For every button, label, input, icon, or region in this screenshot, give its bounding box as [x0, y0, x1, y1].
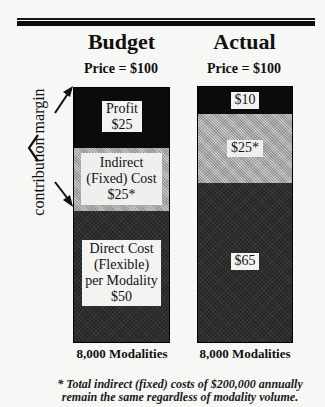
budget-direct-label-line3: per Modality	[82, 273, 161, 289]
budget-indirect-label: Indirect (Fixed) Cost $25*	[81, 153, 162, 205]
actual-profit-label: $10	[231, 92, 259, 109]
budget-title: Budget	[73, 30, 170, 54]
budget-profit-label-value: $25	[102, 117, 142, 133]
budget-indirect-label-line2: (Fixed) Cost	[81, 171, 162, 187]
budget-direct-label-line1: Direct Cost	[82, 241, 161, 257]
actual-bar: $10 $25* $65	[197, 86, 293, 343]
actual-indirect-label: $25*	[227, 140, 263, 157]
budget-indirect-label-line1: Indirect	[81, 155, 162, 171]
footnote-line2: remain the same regardless of modality v…	[40, 391, 320, 404]
budget-direct-label: Direct Cost (Flexible) per Modality $50	[82, 240, 161, 306]
budget-profit-label: Profit $25	[102, 101, 142, 132]
budget-indirect-label-value: $25*	[81, 187, 162, 203]
actual-volume-label: 8,000 Modalities	[183, 346, 307, 361]
budget-direct-label-line2: (Flexible)	[82, 257, 161, 273]
actual-price: Price = $100	[183, 61, 305, 77]
budget-price: Price = $100	[60, 61, 182, 77]
actual-title: Actual	[196, 30, 293, 54]
budget-volume-label: 8,000 Modalities	[60, 346, 184, 361]
actual-direct-label: $65	[231, 253, 259, 270]
header-rule-thick	[17, 21, 315, 26]
header-rule-thin	[17, 18, 315, 20]
footnote: * Total indirect (fixed) costs of $200,0…	[40, 378, 320, 404]
contribution-margin-bracket-icon	[0, 70, 75, 220]
budget-direct-label-value: $50	[82, 289, 161, 305]
budget-bar: Profit $25 Indirect (Fixed) Cost $25* Di…	[73, 87, 170, 343]
budget-profit-label-line1: Profit	[102, 101, 142, 117]
